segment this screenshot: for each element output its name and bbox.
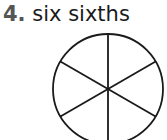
fraction-circle	[0, 0, 167, 140]
